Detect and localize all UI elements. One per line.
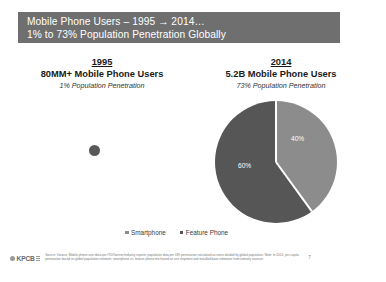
panel-1995: 1995 80MM+ Mobile Phone Users 1% Populat… [16, 57, 188, 90]
pie-slice-1995-feature-phone [89, 145, 100, 156]
panel-2014-year: 2014 [192, 57, 370, 67]
pie-chart-1995 [89, 145, 100, 156]
pie-body [215, 101, 337, 223]
slide-canvas: Mobile Phone Users – 1995 → 2014… 1% to … [0, 0, 386, 282]
legend-label-smartphone: Smartphone [131, 229, 166, 236]
legend-label-feature-phone: Feature Phone [186, 229, 228, 236]
kpcb-mark-icon [10, 256, 15, 261]
panel-2014-subline: 73% Population Penetration [192, 81, 370, 90]
panel-2014-headline: 5.2B Mobile Phone Users [192, 69, 370, 79]
title-banner: Mobile Phone Users – 1995 → 2014… 1% to … [18, 12, 340, 43]
legend-swatch-smartphone [125, 231, 129, 235]
kpcb-logo: KPCB [10, 254, 40, 262]
slide-footer: KPCB Source: Various; Mobile phone user … [10, 254, 380, 262]
title-line-1: Mobile Phone Users – 1995 → 2014… [27, 16, 340, 29]
legend-swatch-feature-phone [180, 231, 184, 235]
pie-separator-mid [275, 161, 312, 212]
pie-separator-start [275, 101, 277, 162]
legend-item-smartphone: Smartphone [125, 229, 166, 236]
title-line-2: 1% to 73% Population Penetration Globall… [27, 29, 340, 42]
panel-1995-subline: 1% Population Penetration [16, 81, 188, 90]
legend-item-feature-phone: Feature Phone [180, 229, 228, 236]
pie-chart-2014: 40% 60% [215, 101, 337, 223]
pie-slice-label-feature-phone: 60% [238, 162, 251, 169]
panel-2014: 2014 5.2B Mobile Phone Users 73% Populat… [192, 57, 370, 90]
kpcb-bars-icon [36, 256, 40, 261]
page-number: 7 [308, 254, 339, 260]
chart-legend: Smartphone Feature Phone [125, 229, 315, 236]
panel-1995-year: 1995 [16, 57, 188, 67]
panel-1995-headline: 80MM+ Mobile Phone Users [16, 69, 188, 79]
kpcb-logo-text: KPCB [17, 255, 35, 262]
source-note: Source: Various; Mobile phone user data … [45, 254, 303, 262]
pie-slice-label-smartphone: 40% [291, 135, 304, 142]
